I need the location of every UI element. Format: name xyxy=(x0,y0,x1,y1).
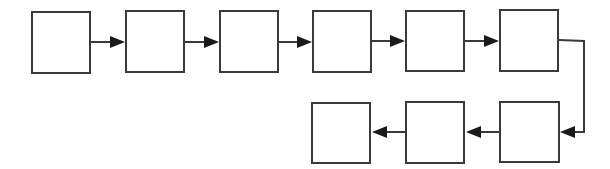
arrowhead-right-icon xyxy=(297,36,312,48)
box-3 xyxy=(219,10,279,73)
box-8 xyxy=(405,101,465,164)
box-4 xyxy=(312,10,372,73)
flow-diagram xyxy=(0,0,610,169)
box-9 xyxy=(311,102,371,164)
box-2 xyxy=(125,10,185,73)
edge-n6-n7 xyxy=(559,40,584,132)
box-1 xyxy=(31,11,91,74)
box-label xyxy=(314,12,370,71)
arrowhead-left-icon xyxy=(560,126,575,138)
box-7 xyxy=(499,101,560,163)
arrowhead-right-icon xyxy=(110,36,125,48)
arrowhead-left-icon xyxy=(466,126,481,138)
box-label xyxy=(221,12,277,71)
box-5 xyxy=(405,10,465,72)
box-label xyxy=(501,103,558,161)
arrowhead-left-icon xyxy=(372,126,387,138)
box-label xyxy=(407,103,463,162)
box-6 xyxy=(499,9,559,72)
box-label xyxy=(501,11,557,70)
arrowhead-right-icon xyxy=(484,35,499,47)
box-label xyxy=(127,12,183,71)
arrowhead-right-icon xyxy=(204,36,219,48)
box-label xyxy=(33,13,89,72)
arrowhead-right-icon xyxy=(390,35,405,47)
box-label xyxy=(313,104,369,162)
box-label xyxy=(407,12,463,70)
